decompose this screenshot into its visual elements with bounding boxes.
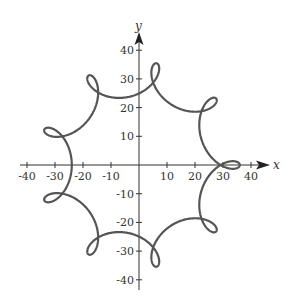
x-tick-label: 10 [160,170,174,183]
x-tick-label: -40 [18,170,36,183]
y-tick-label: 40 [120,44,134,57]
x-tick-label: -10 [102,170,120,183]
y-tick-label: -10 [116,188,134,201]
x-tick-label: 30 [216,170,230,183]
y-axis-label: y [134,19,142,33]
x-tick-label: 40 [244,170,258,183]
x-tick-label: 20 [188,170,202,183]
y-tick-label: 30 [120,73,134,86]
chart-plot: x y -40-30-20-1010203040 -40-30-20-10102… [0,0,294,304]
x-axis-label: x [273,158,280,172]
y-tick-label: 10 [120,130,134,143]
axes: x y -40-30-20-1010203040 -40-30-20-10102… [18,19,280,290]
y-tick-label: -40 [116,274,134,287]
y-tick-label: -20 [116,216,134,229]
x-tick-label: -20 [74,170,92,183]
y-tick-label: -30 [116,245,134,258]
y-tick-label: 20 [120,102,134,115]
x-tick-label: -30 [46,170,64,183]
